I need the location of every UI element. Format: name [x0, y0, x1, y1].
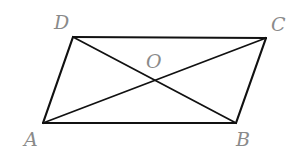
parallelogram-diagram: A B C D O: [0, 0, 300, 152]
side-CD: [73, 37, 266, 38]
label-D: D: [53, 11, 69, 33]
label-A: A: [22, 128, 38, 150]
label-B: B: [235, 128, 250, 150]
side-DA: [43, 37, 73, 123]
side-BC: [236, 38, 266, 123]
label-O: O: [146, 50, 162, 72]
label-C: C: [271, 13, 286, 35]
